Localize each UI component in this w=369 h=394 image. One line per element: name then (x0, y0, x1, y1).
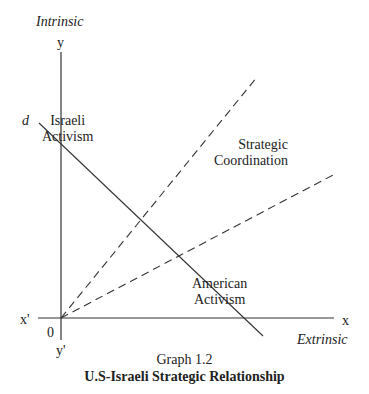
israeli-activism-label: Israeli Activism (42, 113, 93, 145)
y-axis-title: Intrinsic (36, 14, 83, 30)
x-label: x (342, 313, 349, 329)
d-line-label: d (22, 113, 29, 129)
y-label: y (57, 35, 64, 51)
graph-number: Graph 1.2 (0, 352, 369, 368)
origin-label: 0 (47, 325, 54, 341)
x-prime-label: x' (20, 312, 30, 328)
american-activism-label: American Activism (192, 276, 247, 308)
strategic-coordination-label: Strategic Coordination (214, 137, 288, 169)
israeli-activism-line1: Israeli (42, 113, 93, 129)
x-axis-title: Extrinsic (297, 332, 348, 348)
american-activism-line2: Activism (192, 292, 247, 308)
strategic-coordination-line1: Strategic (214, 137, 288, 153)
strategic-coordination-line2: Coordination (214, 153, 288, 169)
american-activism-line1: American (192, 276, 247, 292)
israeli-activism-line2: Activism (42, 129, 93, 145)
graph-title: U.S-Israeli Strategic Relationship (0, 369, 369, 385)
